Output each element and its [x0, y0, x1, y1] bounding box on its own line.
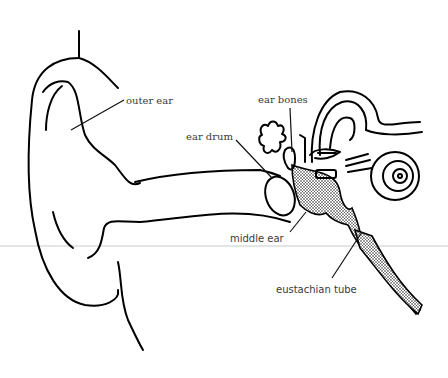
ear-drum-pointer — [236, 140, 272, 178]
eustachian-tube-pointer — [332, 232, 362, 278]
middle-ear-pointer — [290, 212, 306, 232]
label-outer-ear: outer ear — [126, 95, 173, 106]
eustachian-tube-shape — [355, 230, 422, 314]
head-outline — [79, 31, 118, 88]
ear-bones-pointer — [290, 108, 292, 152]
label-eustachian-tube: eustachian tube — [276, 284, 357, 295]
label-ear-bones: ear bones — [258, 94, 308, 105]
label-middle-ear: middle ear — [230, 233, 285, 244]
ear-diagram: outer ear ear bones ear drum middle ear … — [0, 0, 448, 378]
label-ear-drum: ear drum — [186, 131, 233, 142]
